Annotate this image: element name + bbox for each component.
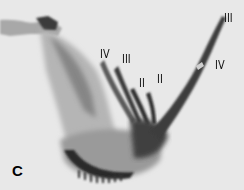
- panel-letter: C: [12, 163, 23, 178]
- label-ii-first: II: [139, 76, 145, 89]
- label-iii-center: III: [122, 52, 131, 65]
- label-ii-second: II: [157, 72, 163, 85]
- specimen-image: [0, 0, 244, 190]
- label-iv-right: IV: [215, 58, 225, 71]
- label-iii-right: III: [224, 11, 233, 24]
- micrograph-panel: IV III II II III IV C: [0, 0, 244, 190]
- label-iv-left: IV: [100, 47, 110, 60]
